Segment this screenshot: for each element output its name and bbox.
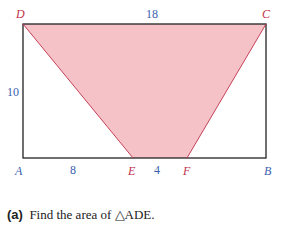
question-a: (a) Find the area of △ADE. (7, 207, 155, 223)
vertex-label-a: A (15, 165, 22, 177)
vertex-label-c: C (262, 8, 270, 20)
length-dc: 18 (146, 8, 158, 20)
question-text: Find the area of △ADE. (29, 207, 154, 222)
question-marker: (a) (7, 207, 23, 222)
length-ef: 4 (154, 164, 160, 176)
vertex-label-d: D (16, 8, 25, 20)
shaded-trapezoid (23, 24, 266, 158)
vertex-label-e: E (128, 165, 135, 177)
vertex-label-f: F (183, 165, 190, 177)
geometry-figure (0, 0, 281, 230)
vertex-label-b: B (264, 165, 271, 177)
length-ae: 8 (70, 164, 76, 176)
length-ad: 10 (7, 86, 19, 98)
